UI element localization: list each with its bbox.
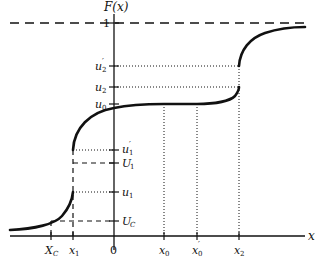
tick-label-x0: x 0 bbox=[159, 244, 169, 258]
dashed-guides bbox=[51, 150, 114, 236]
tick-label-XC: X C bbox=[44, 244, 59, 258]
svg-text:1: 1 bbox=[129, 149, 133, 157]
svg-text:1: 1 bbox=[130, 163, 134, 171]
svg-text:1: 1 bbox=[75, 250, 79, 258]
svg-text:′: ′ bbox=[102, 56, 104, 65]
tick-label-u2-prime: u ′ 2 bbox=[95, 56, 106, 74]
cdf-curve bbox=[10, 27, 305, 230]
svg-text:2: 2 bbox=[102, 87, 106, 95]
svg-text:′: ′ bbox=[198, 239, 200, 248]
tick-label-x0-prime: x ′ 0 bbox=[192, 239, 202, 258]
svg-text:1: 1 bbox=[129, 192, 133, 200]
svg-text:2: 2 bbox=[240, 250, 244, 258]
svg-text:0: 0 bbox=[198, 250, 202, 258]
tick-label-x2: x 2 bbox=[234, 244, 244, 258]
curve-segment-middle bbox=[73, 87, 239, 150]
svg-text:C: C bbox=[53, 250, 59, 258]
svg-text:′: ′ bbox=[129, 139, 131, 148]
tick-label-UC: U C bbox=[122, 215, 136, 229]
curve-segment-left bbox=[10, 192, 73, 230]
svg-text:0: 0 bbox=[165, 250, 169, 258]
origin-label: 0 bbox=[110, 244, 117, 257]
tick-label-x1: x 1 bbox=[69, 244, 79, 258]
curve-segment-right bbox=[239, 27, 305, 66]
tick-label-u1: u 1 bbox=[122, 186, 133, 200]
tick-label-u0: u 0 bbox=[95, 98, 106, 112]
tick-label-u2: u 2 bbox=[95, 81, 106, 95]
tick-label-U1: U 1 bbox=[122, 157, 134, 171]
svg-text:C: C bbox=[130, 221, 136, 229]
y-axis-label: F(x) bbox=[103, 0, 129, 14]
svg-text:0: 0 bbox=[102, 104, 106, 112]
tick-label-one: 1 bbox=[103, 17, 110, 30]
tick-label-u1-prime: u ′ 1 bbox=[122, 139, 133, 157]
svg-text:2: 2 bbox=[102, 66, 106, 74]
cdf-diagram: F(x) x 1 0 u ′ 2 u 2 u 0 u ′ 1 U 1 u 1 U… bbox=[0, 0, 321, 266]
x-axis-label: x bbox=[308, 229, 315, 243]
